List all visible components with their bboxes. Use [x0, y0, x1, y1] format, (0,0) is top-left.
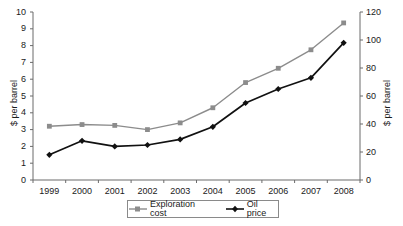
legend-label-oil-price: Oil price	[247, 200, 278, 218]
chart-container: $ per barrel $ per barrel 012345678910 0…	[0, 0, 403, 226]
legend-label-exploration-cost: Exploration cost	[150, 200, 211, 218]
chart-legend: Exploration cost Oil price	[127, 200, 279, 218]
legend-marker-square-icon	[128, 204, 147, 214]
legend-item-oil-price: Oil price	[225, 200, 278, 218]
legend-item-exploration-cost: Exploration cost	[128, 200, 211, 218]
plot-area	[0, 0, 403, 226]
legend-marker-diamond-icon	[225, 204, 244, 214]
